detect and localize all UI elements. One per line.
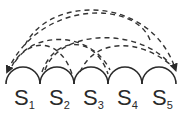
link-s2-s5 [45,38,170,70]
arc-s4 [108,67,142,84]
arc-s1 [6,67,40,84]
cell-label-s5: S5 [152,87,173,116]
link-s2-s4 [42,44,108,74]
arc-s3 [74,67,108,84]
link-s3-s5 [80,46,172,72]
cell-label-s1: S1 [14,87,35,116]
dashed-links [8,10,175,74]
cell-label-s2: S2 [49,87,70,116]
cell-arcs [6,67,176,84]
cell-label-s3: S3 [83,87,104,116]
arc-s5 [142,67,176,84]
cell-label-s4: S4 [117,87,138,116]
